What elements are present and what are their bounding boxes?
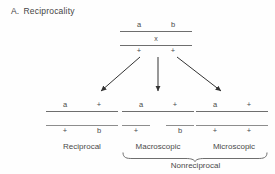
nonreciprocal-label: Nonreciprocal	[0, 161, 275, 170]
reciprocal-bottom-chromosome-line	[46, 125, 118, 126]
microscopic-top-left-allele: a	[210, 101, 220, 109]
microscopic-top-chromosome-line	[196, 111, 268, 112]
macroscopic-top-chromosome-line	[122, 111, 194, 112]
reciprocal-bottom-right-allele: b	[94, 127, 104, 135]
reciprocal-bottom-left-allele: +	[60, 127, 70, 135]
reciprocal-top-chromosome-line	[46, 111, 118, 112]
macroscopic-top-left-allele: a	[136, 101, 146, 109]
reciprocal-top-right-allele: +	[94, 101, 104, 109]
figure-panel: A.Reciprocality a b x + + a + + b Recipr…	[0, 0, 275, 174]
arrow-to-microscopic-icon	[177, 57, 221, 91]
nonreciprocal-label-text: Nonreciprocal	[171, 161, 220, 170]
caption-microscopic: Microscopic	[198, 142, 270, 151]
macroscopic-top-right-allele: +	[170, 101, 180, 109]
microscopic-bottom-right-allele: +	[244, 127, 254, 135]
microscopic-top-right-allele: +	[244, 101, 254, 109]
macroscopic-bottom-right-allele: b	[175, 127, 185, 135]
macroscopic-bottom-left-allele: +	[131, 127, 141, 135]
arrow-to-reciprocal-icon	[101, 57, 140, 91]
caption-macroscopic: Macroscopic	[120, 142, 196, 151]
caption-reciprocal: Reciprocal	[46, 142, 118, 151]
reciprocal-top-left-allele: a	[60, 101, 70, 109]
microscopic-bottom-left-allele: +	[210, 127, 220, 135]
microscopic-bottom-chromosome-line	[196, 125, 268, 126]
